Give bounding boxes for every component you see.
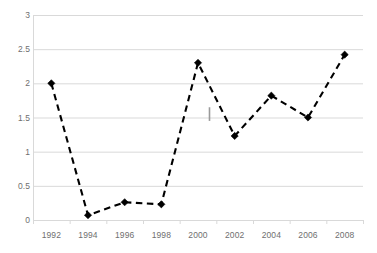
line-chart: 00.511.522.53 19921994199619982000200220… (0, 0, 377, 253)
x-tick-label: 2004 (251, 231, 291, 240)
x-tick-label: 1996 (105, 231, 145, 240)
x-tick-label: 2000 (178, 231, 218, 240)
x-tick-label: 1998 (141, 231, 181, 240)
x-tick-label: 2002 (215, 231, 255, 240)
x-tick-label: 2006 (288, 231, 328, 240)
x-tick-label: 2008 (325, 231, 365, 240)
x-tick-label: 1994 (68, 231, 108, 240)
x-axis-tick-labels: 199219941996199820002002200420062008 (0, 0, 377, 253)
x-tick-label: 1992 (31, 231, 71, 240)
